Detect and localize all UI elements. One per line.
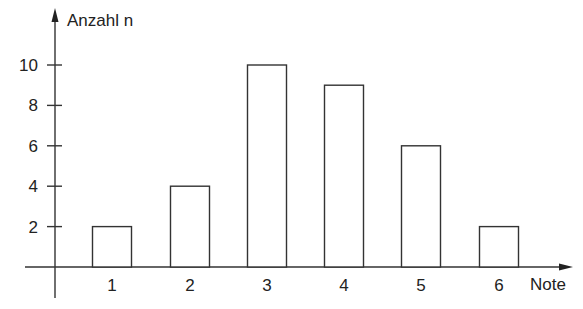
y-tick-label: 6 <box>29 137 38 156</box>
bar-note-6 <box>480 227 519 267</box>
x-tick-label: 4 <box>339 276 348 295</box>
x-axis-label: Note <box>530 275 566 294</box>
bar-note-1 <box>93 227 132 267</box>
x-tick-label: 5 <box>416 276 425 295</box>
y-tick-label: 10 <box>19 56 38 75</box>
y-tick-label: 8 <box>29 96 38 115</box>
bar-note-4 <box>325 85 364 267</box>
y-tick-label: 4 <box>29 177 38 196</box>
bar-note-5 <box>402 146 441 267</box>
bar-note-2 <box>171 186 210 267</box>
y-axis-arrow-icon <box>52 8 59 22</box>
x-tick-label: 6 <box>494 276 503 295</box>
x-axis-arrow-icon <box>559 264 573 271</box>
x-tick-label: 3 <box>262 276 271 295</box>
y-axis-label: Anzahl n <box>67 11 133 30</box>
y-tick-label: 2 <box>29 218 38 237</box>
x-tick-label: 2 <box>185 276 194 295</box>
x-tick-label: 1 <box>107 276 116 295</box>
bar-note-3 <box>248 65 287 267</box>
x-tick-labels: 123456 <box>107 276 503 295</box>
bars <box>93 65 519 267</box>
bar-chart: Anzahl n Note 246810 123456 <box>0 0 583 309</box>
